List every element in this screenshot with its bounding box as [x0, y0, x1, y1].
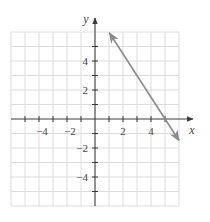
coordinate-plane: −4 −2 2 4 4 2 −2 −4 y x: [0, 0, 210, 222]
y-tick-label: 2: [83, 84, 89, 96]
x-tick-label: 4: [148, 125, 154, 137]
y-tick-label: 4: [83, 55, 89, 67]
y-tick-label: −4: [76, 171, 88, 183]
x-tick-label: −2: [64, 125, 76, 137]
x-tick-label: −4: [36, 125, 48, 137]
y-axis-label: y: [82, 12, 89, 26]
x-axis-label: x: [188, 123, 195, 137]
x-tick-label: 2: [120, 125, 126, 137]
y-tick-label: −2: [76, 142, 88, 154]
